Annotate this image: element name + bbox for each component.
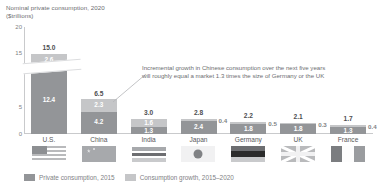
bar-segment-base[interactable]: 1.3 (330, 127, 366, 134)
base-value-label: 1.3 (131, 128, 167, 134)
bar-column-japan[interactable]: 2.80.42.4 (181, 119, 217, 134)
y-axis-tick-0: 0 (6, 131, 22, 137)
growth-value-label: 0.5 (268, 121, 277, 127)
bar-total-label: 2.2 (224, 113, 272, 120)
plot-area: 15.02.612.46.52.34.23.01.61.32.80.42.42.… (24, 27, 373, 134)
category-uk[interactable]: UK (273, 135, 323, 162)
y-axis-tick-labels: 201550 (2, 0, 22, 194)
bar-segment-base[interactable]: 1.3 (131, 127, 167, 134)
base-value-label: 12.4 (31, 97, 67, 103)
growth-value-label: 2.3 (81, 102, 117, 108)
category-germany[interactable]: Germany (223, 135, 273, 162)
chart-legend: Private consumption, 2015Consumption gro… (24, 174, 234, 181)
bar-segment-growth[interactable]: 2.3 (81, 99, 117, 111)
category-france[interactable]: France (323, 135, 373, 162)
bar-segment-base[interactable]: 1.8 (280, 124, 316, 134)
flag-in-icon (132, 144, 166, 162)
bar-column-france[interactable]: 1.70.41.3 (330, 125, 366, 134)
bar-total-label: 2.8 (175, 110, 223, 117)
category-us[interactable]: U.S. (24, 135, 74, 162)
flag-us-icon (32, 144, 66, 162)
bar-total-label: 3.0 (125, 110, 173, 117)
flag-de-icon (231, 144, 265, 162)
bar-segment-growth[interactable]: 1.6 (131, 119, 167, 128)
y-axis-tick-5: 5 (6, 104, 22, 110)
flag-uk-icon (281, 144, 315, 162)
legend-swatch-icon (125, 174, 136, 181)
bar-segment-base[interactable]: 12.4 (31, 68, 67, 134)
category-india[interactable]: India (124, 135, 174, 162)
legend-item-1[interactable]: Consumption growth, 2015–2020 (125, 174, 234, 181)
flag-jp-icon (181, 144, 215, 162)
legend-swatch-icon (24, 174, 35, 181)
bar-column-uk[interactable]: 2.10.31.8 (280, 123, 316, 134)
bar-column-india[interactable]: 3.01.61.3 (131, 119, 167, 135)
chart-container: Nominal private consumption, 2020 ($tril… (0, 0, 377, 194)
base-value-label: 1.3 (330, 128, 366, 134)
category-china[interactable]: China (74, 135, 124, 162)
bar-total-label: 1.7 (324, 116, 372, 123)
base-value-label: 2.4 (181, 124, 217, 130)
base-value-label: 1.8 (230, 126, 266, 132)
base-value-label: 4.2 (81, 119, 117, 125)
category-japan[interactable]: Japan (174, 135, 224, 162)
bar-column-germany[interactable]: 2.20.51.8 (230, 122, 266, 134)
growth-value-label: 1.6 (131, 120, 167, 126)
bar-total-label: 2.1 (274, 114, 322, 121)
category-label: Japan (190, 135, 208, 144)
category-label: Germany (235, 135, 262, 144)
legend-label: Private consumption, 2015 (39, 174, 115, 181)
legend-label: Consumption growth, 2015–2020 (140, 174, 234, 181)
category-label: France (338, 135, 359, 144)
flag-cn-icon (82, 144, 116, 162)
bar-column-china[interactable]: 6.52.34.2 (81, 99, 117, 134)
y-axis-tick-15: 15 (6, 50, 22, 56)
bar-total-label: 15.0 (25, 45, 73, 52)
growth-value-label: 0.4 (368, 124, 377, 130)
category-label: China (90, 135, 107, 144)
bar-segment-base[interactable]: 2.4 (181, 121, 217, 134)
bar-column-us[interactable]: 15.02.612.4 (31, 54, 67, 134)
chart-annotation: Incremental growth in Chinese consumptio… (142, 64, 374, 80)
bar-segment-base[interactable]: 1.8 (230, 124, 266, 134)
flag-fr-icon (331, 144, 365, 162)
y-axis-tick-20: 20 (6, 24, 22, 30)
category-label: UK (294, 135, 303, 144)
legend-item-0[interactable]: Private consumption, 2015 (24, 174, 115, 181)
category-label: U.S. (43, 135, 56, 144)
category-axis: U.S.ChinaIndiaJapanGermanyUKFrance (24, 135, 373, 169)
bar-segment-base[interactable]: 4.2 (81, 112, 117, 134)
category-label: India (141, 135, 155, 144)
base-value-label: 1.8 (280, 126, 316, 132)
